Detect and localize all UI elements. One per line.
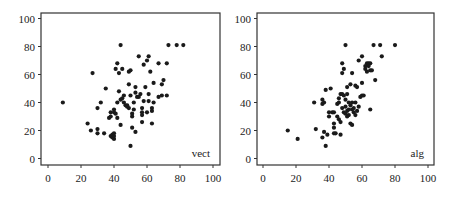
x-tick-label: 60 — [142, 172, 154, 184]
data-point — [95, 127, 99, 131]
data-point — [152, 81, 156, 85]
data-point — [347, 113, 351, 117]
data-point — [362, 93, 366, 97]
data-point — [329, 86, 333, 90]
y-tick-label: 40 — [240, 97, 252, 109]
data-point — [343, 105, 347, 109]
data-point — [127, 82, 131, 86]
data-point — [61, 100, 65, 104]
x-tick-label: 0 — [45, 172, 51, 184]
data-point — [160, 93, 164, 97]
data-point — [117, 71, 121, 75]
data-point — [353, 100, 357, 104]
y-tick-label: 40 — [24, 97, 36, 109]
data-point — [393, 43, 397, 47]
data-point — [115, 100, 119, 104]
x-tick-label: 0 — [260, 172, 266, 184]
data-point — [122, 93, 126, 97]
data-point — [147, 99, 151, 103]
data-point — [140, 106, 144, 110]
data-point — [130, 126, 134, 130]
data-point — [119, 43, 123, 47]
data-point — [320, 135, 324, 139]
data-point — [90, 71, 94, 75]
data-point — [140, 120, 144, 124]
data-point — [165, 93, 169, 97]
data-point — [147, 54, 151, 58]
data-point — [132, 107, 136, 111]
data-point — [334, 131, 338, 135]
data-point — [115, 61, 119, 65]
data-point — [142, 63, 146, 67]
data-point — [130, 112, 134, 116]
data-point — [165, 61, 169, 65]
data-point — [343, 98, 347, 102]
data-point — [128, 93, 132, 97]
data-points — [61, 43, 186, 148]
data-point — [353, 113, 357, 117]
data-point — [324, 88, 328, 92]
y-tick-label: 100 — [19, 13, 36, 25]
panel-label: vect — [192, 147, 210, 159]
data-point — [360, 54, 364, 58]
data-point — [133, 91, 137, 95]
data-point — [148, 70, 152, 74]
data-point — [348, 82, 352, 86]
y-tick-label: 20 — [240, 125, 252, 137]
data-point — [112, 131, 116, 135]
data-point — [181, 43, 185, 47]
data-points — [286, 43, 397, 148]
data-point — [142, 99, 146, 103]
y-tick-label: 80 — [240, 41, 252, 53]
data-point — [175, 43, 179, 47]
panel-label: alg — [411, 147, 425, 159]
data-point — [373, 78, 377, 82]
data-point — [314, 127, 318, 131]
data-point — [340, 61, 344, 65]
data-point — [119, 123, 123, 127]
x-tick-label: 80 — [175, 172, 187, 184]
data-point — [350, 123, 354, 127]
data-point — [156, 61, 160, 65]
x-tick-label: 100 — [420, 172, 437, 184]
x-tick-label: 20 — [76, 172, 88, 184]
data-point — [343, 43, 347, 47]
data-point — [114, 67, 118, 71]
data-point — [357, 105, 361, 109]
data-point — [102, 131, 106, 135]
data-point — [322, 100, 326, 104]
data-point — [145, 58, 149, 62]
data-point — [128, 144, 132, 148]
data-point — [140, 113, 144, 117]
data-point — [166, 43, 170, 47]
data-point — [147, 92, 151, 96]
data-point — [338, 120, 342, 124]
plot-frame — [41, 13, 220, 165]
data-point — [324, 144, 328, 148]
data-point — [286, 128, 290, 132]
data-point — [150, 121, 154, 125]
scatter-plot-vect: 020406080100020406080100vect — [0, 0, 227, 197]
data-point — [350, 71, 354, 75]
y-tick-label: 60 — [240, 69, 252, 81]
data-point — [322, 130, 326, 134]
data-point — [355, 85, 359, 89]
data-point — [325, 133, 329, 137]
data-point — [133, 85, 137, 89]
x-tick-label: 40 — [324, 172, 336, 184]
data-point — [368, 107, 372, 111]
scatter-plot-alg: 020406080100020406080100alg — [216, 0, 443, 197]
x-tick-label: 40 — [109, 172, 121, 184]
data-point — [95, 131, 99, 135]
data-point — [332, 126, 336, 130]
data-point — [150, 109, 154, 113]
data-point — [345, 85, 349, 89]
data-point — [109, 114, 113, 118]
data-point — [370, 68, 374, 72]
data-point — [152, 100, 156, 104]
data-point — [337, 96, 341, 100]
data-point — [357, 58, 361, 62]
data-point — [132, 100, 136, 104]
data-point — [371, 43, 375, 47]
data-point — [160, 82, 164, 86]
